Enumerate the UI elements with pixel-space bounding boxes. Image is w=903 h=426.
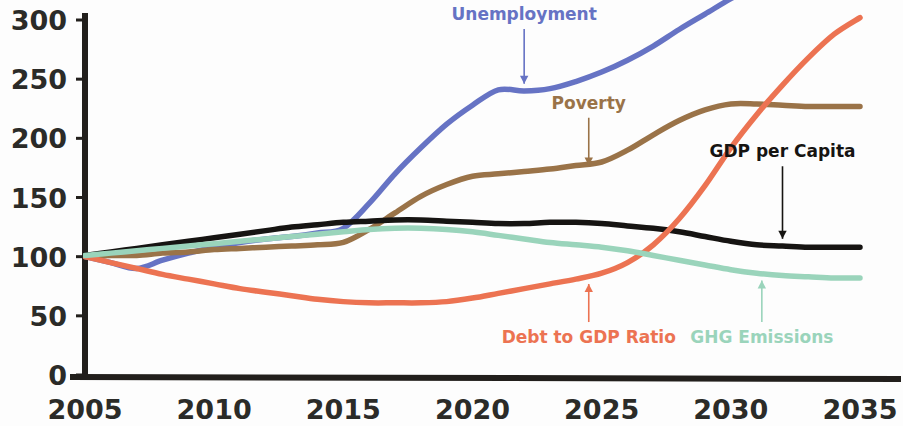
y-axis-tick-label: 300 [11, 5, 67, 36]
x-axis-tick-label: 2020 [435, 394, 510, 425]
y-axis-tick-label: 0 [48, 360, 67, 391]
chart-axes [73, 16, 898, 379]
series-annotation-label: Unemployment [451, 4, 596, 24]
series-annotation-arrowhead [778, 231, 786, 239]
y-axis-tick-label: 100 [11, 242, 67, 273]
series-annotation-arrowhead [758, 280, 766, 288]
series-annotation-label: Poverty [552, 93, 626, 113]
x-axis-tick-label: 2005 [47, 394, 122, 425]
chart-container: 050100150200250300 200520102015202020252… [0, 0, 903, 426]
series-annotation-label: GDP per Capita [710, 141, 856, 161]
y-axis-tick-labels: 050100150200250300 [11, 5, 67, 391]
x-axis-tick-label: 2035 [822, 394, 897, 425]
x-axis-tick-label: 2030 [693, 394, 768, 425]
line-chart: 050100150200250300 200520102015202020252… [0, 0, 903, 426]
x-axis-tick-labels: 2005201020152020202520302035 [47, 394, 897, 425]
chart-series-annotations: UnemploymentPovertyGDP per CapitaDebt to… [451, 4, 855, 347]
y-axis-tick-label: 150 [11, 183, 67, 214]
series-annotation-label: Debt to GDP Ratio [502, 327, 676, 347]
y-axis-tick-label: 250 [11, 64, 67, 95]
series-annotation-arrowhead [520, 76, 528, 84]
x-axis-tick-label: 2025 [564, 394, 639, 425]
y-axis-tick-label: 50 [29, 301, 67, 332]
y-axis-tick-label: 200 [11, 123, 67, 154]
x-axis-tick-label: 2015 [306, 394, 381, 425]
series-annotation-arrowhead [585, 284, 593, 292]
x-axis-spine [73, 377, 898, 379]
series-annotation-label: GHG Emissions [690, 327, 833, 347]
x-axis-tick-label: 2010 [177, 394, 252, 425]
